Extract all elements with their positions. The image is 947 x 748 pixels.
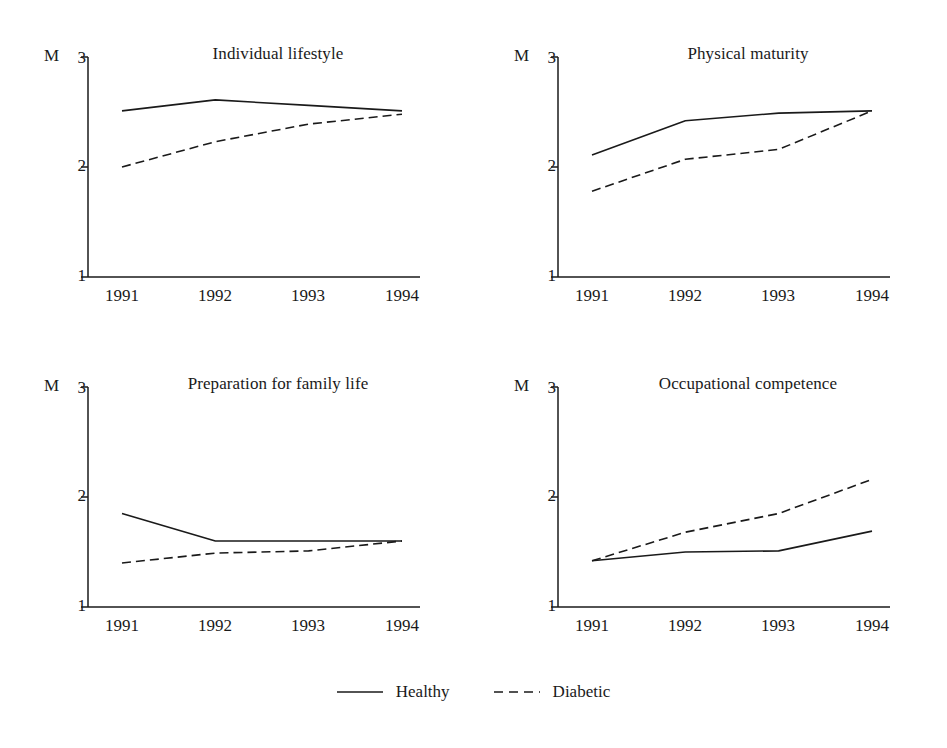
series-line-diabetic [122, 114, 402, 167]
series-line-diabetic [592, 479, 872, 560]
series-line-healthy [122, 100, 402, 111]
series-line-healthy [122, 514, 402, 542]
plot-area [18, 18, 488, 348]
multi-panel-line-chart-figure: M Individual lifestyle 3 2 1 1991 1992 1… [0, 0, 947, 748]
chart-panel-physical-maturity: M Physical maturity 3 2 1 1991 1992 1993… [488, 18, 947, 348]
plot-area [488, 18, 947, 348]
series-line-diabetic [122, 541, 402, 563]
chart-legend: Healthy Diabetic [0, 672, 947, 712]
legend-label-diabetic: Diabetic [553, 682, 611, 702]
legend-entry-diabetic: Diabetic [494, 682, 611, 702]
plot-area [18, 348, 488, 678]
series-line-healthy [592, 531, 872, 561]
solid-line-icon [337, 686, 383, 698]
chart-panel-occupational-competence: M Occupational competence 3 2 1 1991 199… [488, 348, 947, 678]
legend-label-healthy: Healthy [396, 682, 450, 702]
chart-panel-individual-lifestyle: M Individual lifestyle 3 2 1 1991 1992 1… [18, 18, 488, 348]
chart-panel-preparation-for-family-life: M Preparation for family life 3 2 1 1991… [18, 348, 488, 678]
plot-area [488, 348, 947, 678]
series-line-healthy [592, 111, 872, 155]
dashed-line-icon [494, 686, 540, 698]
legend-entry-healthy: Healthy [337, 682, 450, 702]
series-line-diabetic [592, 111, 872, 191]
